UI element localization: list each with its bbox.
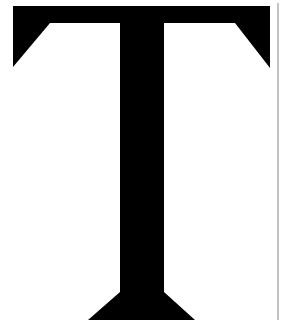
glyph-canvas: T xyxy=(0,0,283,333)
letter-t-icon xyxy=(0,0,283,333)
